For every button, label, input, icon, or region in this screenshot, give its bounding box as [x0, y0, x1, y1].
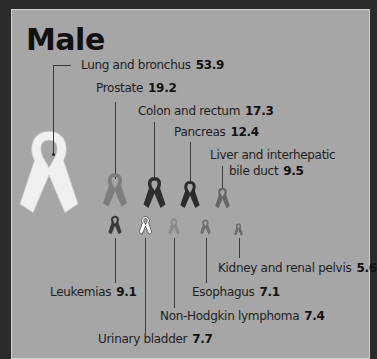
ribbon-icon-nhl — [168, 218, 180, 235]
ribbon-icon-esophagus — [200, 219, 211, 235]
label-pancreas: Pancreas12.4 — [174, 125, 259, 139]
label-lung: Lung and bronchus53.9 — [81, 58, 224, 72]
label-kidney: Kidney and renal pelvis5.6 — [218, 261, 377, 275]
leader-line — [222, 166, 223, 188]
leader-line — [145, 238, 146, 333]
ribbon-icon-lung — [20, 124, 78, 220]
leader-line — [174, 238, 175, 308]
ribbon-icon-prostate — [103, 172, 127, 208]
label-liver-line2: bile duct9.5 — [229, 164, 304, 178]
ribbon-icon-colon — [143, 176, 166, 209]
leader-line — [239, 238, 240, 258]
leader-line — [115, 102, 116, 179]
leader-line — [154, 122, 155, 180]
leader-line — [53, 65, 71, 66]
ribbon-icon-liver — [215, 187, 230, 209]
label-colon: Colon and rectum17.3 — [138, 104, 273, 118]
ribbon-icon-leukemias — [108, 215, 122, 235]
label-nhl: Non-Hodgkin lymphoma7.4 — [160, 309, 325, 323]
leader-line — [115, 238, 116, 283]
label-liver-line1: Liver and interhepatic — [210, 148, 335, 162]
ribbon-icon-urinary-bladder — [139, 216, 152, 235]
leader-line — [190, 142, 191, 182]
leader-dot — [52, 153, 55, 156]
ribbon-icon-pancreas — [180, 180, 200, 209]
leader-line — [206, 238, 207, 283]
label-leukemias: Leukemias9.1 — [50, 285, 137, 299]
label-esophagus: Esophagus7.1 — [192, 285, 280, 299]
leader-line — [53, 65, 54, 155]
label-prostate: Prostate19.2 — [96, 81, 176, 95]
chart-title: Male — [26, 22, 105, 57]
label-urinary-bladder: Urinary bladder7.7 — [98, 332, 213, 346]
ribbon-icon-kidney — [234, 223, 243, 236]
